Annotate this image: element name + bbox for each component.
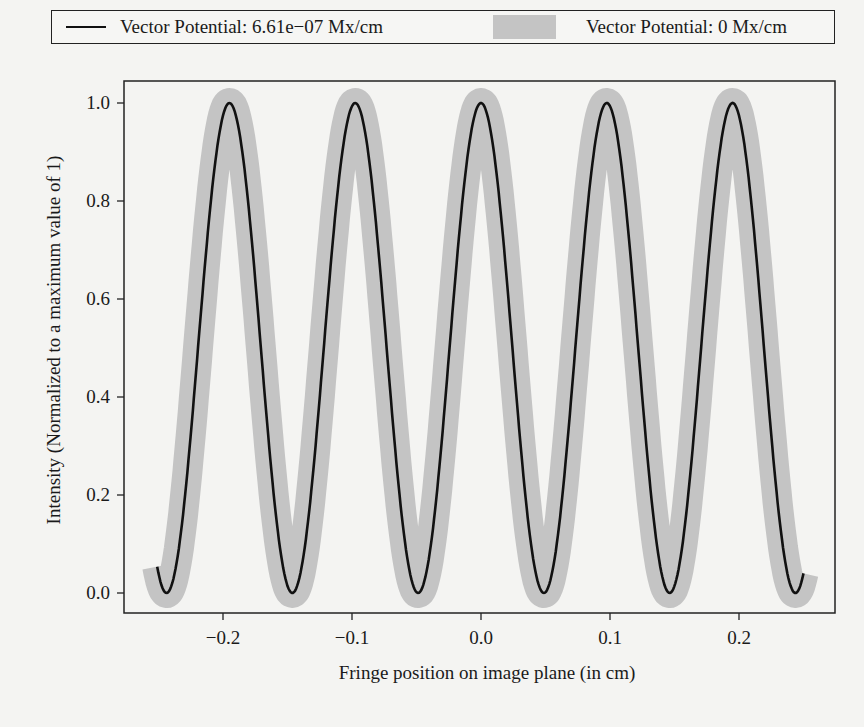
y-tick-label: 1.0 <box>86 92 110 113</box>
x-tick-label: −0.1 <box>335 627 369 648</box>
x-axis-label: Fringe position on image plane (in cm) <box>0 662 864 684</box>
y-tick-label: 0.8 <box>86 190 110 211</box>
plot-area: −0.2−0.10.00.10.2 0.00.20.40.60.81.0 <box>0 0 864 727</box>
y-tick-label: 0.0 <box>86 582 110 603</box>
x-tick-label: 0.2 <box>727 627 751 648</box>
y-tick-label: 0.4 <box>86 386 110 407</box>
x-tick-label: −0.2 <box>206 627 240 648</box>
y-axis-ticks: 0.00.20.40.60.81.0 <box>86 92 124 603</box>
y-axis-label: Intensity (Normalized to a maximum value… <box>43 156 65 525</box>
x-tick-label: 0.1 <box>598 627 622 648</box>
series-band-0-mx <box>157 103 803 593</box>
x-tick-label: 0.0 <box>469 627 493 648</box>
y-tick-label: 0.2 <box>86 484 110 505</box>
y-tick-label: 0.6 <box>86 288 110 309</box>
x-axis-ticks: −0.2−0.10.00.10.2 <box>206 613 751 648</box>
